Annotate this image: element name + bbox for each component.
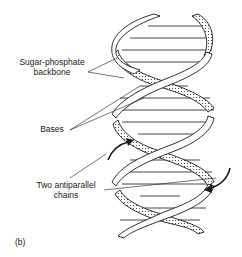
panel-label: (b) [15,237,25,247]
base-pair-rungs [118,26,214,220]
label-bases: Bases [36,124,68,134]
label-backbone-line1: Sugar-phosphate [12,57,92,67]
label-chains-line1: Two antiparallel [28,180,104,190]
label-chains-line2: chains [28,190,104,200]
label-backbone-line2: backbone [12,67,92,77]
label-two-antiparallel-chains: Two antiparallel chains [28,180,104,200]
label-sugar-phosphate-backbone: Sugar-phosphate backbone [12,57,92,77]
